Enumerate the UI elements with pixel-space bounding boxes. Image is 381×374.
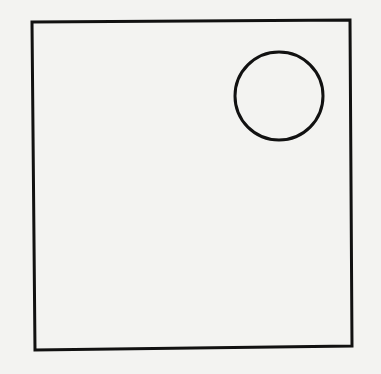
shape-figure [0,0,381,374]
diagram-canvas [0,0,381,374]
outer-square-shape [32,20,352,350]
inner-circle-shape [235,52,323,140]
